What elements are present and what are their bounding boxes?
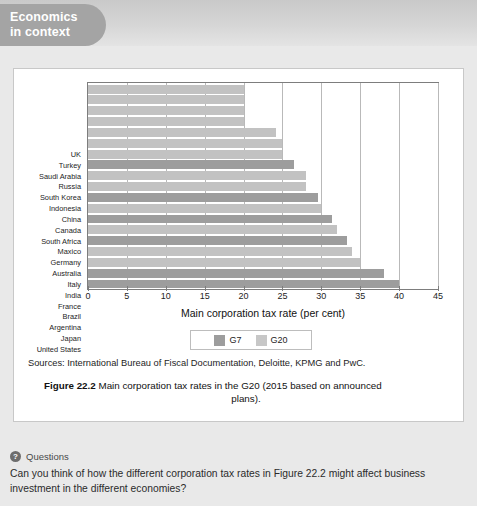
bar-row bbox=[88, 84, 438, 95]
bar-uk bbox=[88, 85, 244, 94]
y-axis-label-uk: UK bbox=[14, 150, 84, 161]
y-axis-label-canada: Canada bbox=[14, 226, 84, 237]
bar-row bbox=[88, 214, 438, 225]
x-tick-label-0: 0 bbox=[85, 291, 90, 301]
y-axis-label-south-africa: South Africa bbox=[14, 237, 84, 248]
bar-row bbox=[88, 94, 438, 105]
bar-row bbox=[88, 127, 438, 138]
bar-germany bbox=[88, 193, 318, 202]
figure-caption-line-1: Main corporation tax rates in the G20 (2… bbox=[98, 380, 381, 391]
figure-caption: Figure 22.2 Main corporation tax rates i… bbox=[44, 379, 448, 405]
questions-title: Questions bbox=[26, 451, 69, 462]
y-axis-label-germany: Germany bbox=[14, 258, 84, 269]
y-axis-label-south-korea: South Korea bbox=[14, 193, 84, 204]
y-axis-label-japan: Japan bbox=[14, 334, 84, 345]
bar-maxico bbox=[88, 182, 306, 191]
figure-caption-line-2: plans). bbox=[44, 392, 448, 405]
x-tick-label-35: 35 bbox=[355, 291, 365, 301]
questions-heading: ? Questions bbox=[10, 451, 69, 462]
bar-row bbox=[88, 181, 438, 192]
badge-line-1: Economics bbox=[10, 10, 106, 25]
x-tick-label-40: 40 bbox=[394, 291, 404, 301]
y-axis-label-italy: Italy bbox=[14, 280, 84, 291]
y-axis-label-russia: Russia bbox=[14, 182, 84, 193]
bar-row bbox=[88, 246, 438, 257]
bar-south-africa bbox=[88, 171, 306, 180]
badge-line-2: in context bbox=[10, 25, 106, 40]
bar-china bbox=[88, 150, 282, 159]
chart-legend: G7 G20 bbox=[190, 330, 312, 350]
bar-italy bbox=[88, 215, 332, 224]
chart-x-axis-title: Main corporation tax rate (per cent) bbox=[87, 307, 439, 319]
chart-x-axis-ticks: 051015202530354045 bbox=[87, 291, 439, 305]
y-axis-label-argentina: Argentina bbox=[14, 323, 84, 334]
bar-row bbox=[88, 170, 438, 181]
x-tick-label-15: 15 bbox=[200, 291, 210, 301]
bar-australia bbox=[88, 204, 321, 213]
gridline-45 bbox=[438, 83, 439, 289]
y-axis-label-australia: Australia bbox=[14, 269, 84, 280]
x-tick-label-10: 10 bbox=[161, 291, 171, 301]
chart-bars bbox=[88, 84, 438, 290]
bar-row bbox=[88, 149, 438, 160]
bar-canada bbox=[88, 160, 294, 169]
questions-text: Can you think of how the different corpo… bbox=[10, 467, 462, 496]
legend-label-g7: G7 bbox=[229, 335, 241, 345]
chart-sources: Sources: International Bureau of Fiscal … bbox=[28, 358, 458, 368]
bar-row bbox=[88, 203, 438, 214]
bar-indonesia bbox=[88, 139, 282, 148]
y-axis-label-france: France bbox=[14, 302, 84, 313]
legend-item-g20: G20 bbox=[256, 335, 288, 346]
bar-argentina bbox=[88, 258, 360, 267]
bar-row bbox=[88, 235, 438, 246]
x-tick-label-25: 25 bbox=[277, 291, 287, 301]
bar-row bbox=[88, 192, 438, 203]
legend-swatch-g20 bbox=[256, 335, 267, 346]
bar-india bbox=[88, 225, 337, 234]
y-axis-label-saudi-arabia: Saudi Arabia bbox=[14, 172, 84, 183]
bar-row bbox=[88, 159, 438, 170]
y-axis-label-turkey: Turkey bbox=[14, 161, 84, 172]
bar-row bbox=[88, 105, 438, 116]
x-tick-label-30: 30 bbox=[316, 291, 326, 301]
question-mark-icon: ? bbox=[10, 451, 21, 462]
y-axis-label-indonesia: Indonesia bbox=[14, 204, 84, 215]
chart-plot-area bbox=[87, 82, 439, 290]
legend-swatch-g7 bbox=[214, 335, 225, 346]
header-band: Economics in context bbox=[0, 0, 477, 46]
bar-row bbox=[88, 224, 438, 235]
x-tick-label-20: 20 bbox=[239, 291, 249, 301]
questions-block: ? Questions Can you think of how the dif… bbox=[0, 436, 477, 506]
bar-france bbox=[88, 236, 347, 245]
economics-in-context-badge: Economics in context bbox=[0, 4, 106, 46]
y-axis-label-brazil: Brazil bbox=[14, 312, 84, 323]
bar-saudi-arabia bbox=[88, 106, 244, 115]
bar-row bbox=[88, 268, 438, 279]
bar-brazil bbox=[88, 247, 352, 256]
figure-card: UKTurkeySaudi ArabiaRussiaSouth KoreaInd… bbox=[13, 68, 464, 422]
bar-row bbox=[88, 138, 438, 149]
bar-russia bbox=[88, 117, 244, 126]
x-tick-label-45: 45 bbox=[433, 291, 443, 301]
bar-turkey bbox=[88, 95, 244, 104]
legend-label-g20: G20 bbox=[271, 335, 288, 345]
bar-row bbox=[88, 279, 438, 290]
bar-row bbox=[88, 257, 438, 268]
y-axis-label-united-states: United States bbox=[14, 345, 84, 356]
bar-south-korea bbox=[88, 128, 276, 137]
y-axis-label-china: China bbox=[14, 215, 84, 226]
bar-japan bbox=[88, 269, 384, 278]
y-axis-label-maxico: Maxico bbox=[14, 247, 84, 258]
legend-item-g7: G7 bbox=[214, 335, 241, 346]
y-axis-label-india: India bbox=[14, 291, 84, 302]
chart-y-axis-labels: UKTurkeySaudi ArabiaRussiaSouth KoreaInd… bbox=[14, 150, 84, 358]
x-tick-label-5: 5 bbox=[124, 291, 129, 301]
bar-row bbox=[88, 116, 438, 127]
figure-caption-label: Figure 22.2 bbox=[44, 380, 96, 391]
